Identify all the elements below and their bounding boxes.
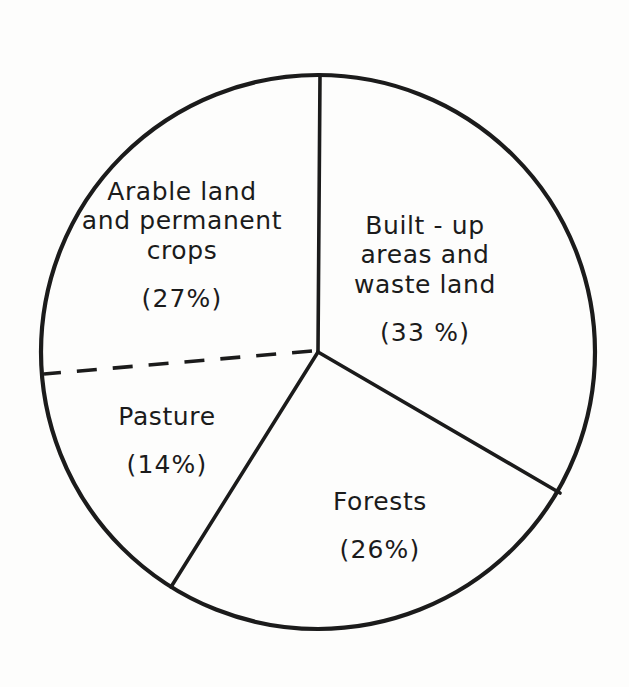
slice-boundary-builtup-forests [318, 352, 560, 493]
pie-chart-figure: Arable land and permanent crops (27%) Bu… [0, 0, 629, 687]
slice-boundary-forests-pasture [171, 352, 318, 587]
slice-boundary-arable-builtup [318, 75, 320, 352]
slice-boundary-pasture-arable-dashed [44, 351, 312, 374]
page-background: Arable land and permanent crops (27%) Bu… [0, 0, 629, 687]
pie-chart-svg [0, 0, 629, 687]
